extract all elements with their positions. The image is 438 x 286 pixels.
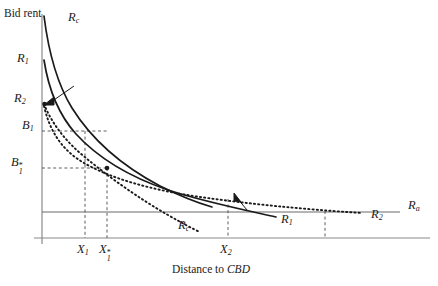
marker-b1-star-point xyxy=(105,166,110,171)
curve-rc-solid xyxy=(44,16,212,207)
curve-label-ra-right-sub: a xyxy=(416,204,420,213)
x-axis-title-cbd: CBD xyxy=(227,263,250,275)
x-tick-label-x2: X2 xyxy=(220,243,232,257)
curve-label-r1-right-sub: 1 xyxy=(289,218,293,227)
y-intercept-label-r2-sub: 2 xyxy=(22,97,26,106)
x-tick-label-x1-star-base: X xyxy=(99,242,107,256)
x-axis-title: Distance to CBD xyxy=(172,264,250,276)
curve-label-r2-right: R2 xyxy=(371,208,383,222)
y-level-label-b1-base: B xyxy=(22,118,30,132)
curve-label-r1-right: R1 xyxy=(281,213,293,227)
curve-label-ra-right: Ra xyxy=(408,199,420,213)
curve-r1-solid xyxy=(44,60,276,217)
bid-rent-plot-canvas xyxy=(0,0,438,286)
curve-r2-dotted xyxy=(44,106,362,213)
x-tick-label-x2-sub: 2 xyxy=(228,248,232,257)
y-intercept-label-r2-base: R xyxy=(14,91,22,105)
y-level-label-b1-star-sub: 1 xyxy=(19,168,23,176)
y-intercept-label-r1: R1 xyxy=(17,52,29,66)
intersection-markers-group xyxy=(42,102,109,171)
curve-label-rc-lower-sub: c xyxy=(186,224,190,233)
x-tick-label-x1-base: X xyxy=(77,242,85,256)
curve-label-rc-upper-base: R xyxy=(68,10,76,24)
x-tick-label-x1-sub: 1 xyxy=(85,248,89,257)
x-axis-title-prefix: Distance to xyxy=(172,263,227,275)
y-intercept-label-r2: R2 xyxy=(14,92,26,106)
y-level-label-b1-star-base: B xyxy=(11,155,19,169)
x-tick-label-x2-base: X xyxy=(220,242,228,256)
x-tick-label-x1-star-sub: 1 xyxy=(107,255,111,263)
curve-label-rc-upper: Rc xyxy=(68,11,79,25)
x-tick-label-x1: X1 xyxy=(77,243,89,257)
y-level-label-b1: B1 xyxy=(22,119,34,133)
curve-label-r1-right-base: R xyxy=(281,212,289,226)
curve-label-r2-right-sub: 2 xyxy=(379,213,383,222)
curve-label-rc-lower-base: R xyxy=(178,218,186,232)
curve-label-rc-upper-sub: c xyxy=(76,16,80,25)
arrow-to-r2-head xyxy=(44,97,54,105)
y-level-label-b1-sub: 1 xyxy=(30,124,34,133)
y-level-label-b1-star: B*1 xyxy=(11,156,24,169)
arrow-to-r2-curve-head xyxy=(234,193,241,202)
bid-rent-figure: Bid rent Distance to CBD Rc R1 R2 B1 B*1… xyxy=(0,0,438,286)
y-axis-title: Bid rent xyxy=(4,8,41,20)
x-tick-label-x1-star: X*1 xyxy=(99,243,112,256)
y-intercept-label-r1-base: R xyxy=(17,51,25,65)
curve-label-ra-right-base: R xyxy=(408,198,416,212)
y-intercept-label-r1-sub: 1 xyxy=(25,57,29,66)
curve-label-r2-right-base: R xyxy=(371,207,379,221)
curve-label-rc-lower: Rc xyxy=(178,219,189,233)
